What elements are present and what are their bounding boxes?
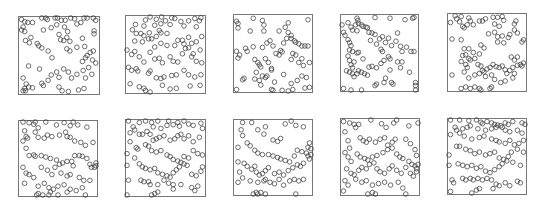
data-point-marker: [376, 181, 381, 186]
data-point-marker: [300, 74, 305, 79]
data-point-marker: [468, 86, 473, 91]
data-point-marker: [361, 57, 366, 62]
data-point-marker: [385, 147, 390, 152]
data-point-marker: [69, 159, 74, 164]
data-point-marker: [237, 170, 242, 175]
data-point-marker: [253, 148, 258, 153]
data-point-marker: [367, 30, 372, 35]
data-point-marker: [414, 170, 419, 175]
data-point-marker: [343, 178, 348, 183]
data-point-marker: [186, 122, 191, 127]
data-point-marker: [468, 148, 473, 153]
data-point-marker: [33, 130, 38, 135]
data-point-marker: [159, 126, 164, 131]
data-point-marker: [511, 76, 516, 81]
data-point-marker: [169, 73, 174, 78]
data-point-marker: [492, 22, 497, 27]
data-point-marker: [373, 140, 378, 145]
plot-frame: [234, 120, 313, 196]
data-point-marker: [245, 141, 250, 146]
data-point-marker: [68, 39, 73, 44]
data-point-marker: [287, 179, 292, 184]
data-point-marker: [497, 164, 502, 169]
data-point-marker: [275, 139, 280, 144]
data-point-marker: [22, 129, 27, 134]
data-point-marker: [395, 60, 400, 65]
data-point-marker: [477, 52, 482, 57]
data-point-marker: [497, 156, 502, 161]
data-point-marker: [459, 86, 464, 91]
data-point-marker: [26, 64, 31, 69]
scatter-panel-9: [340, 118, 420, 196]
data-point-marker: [31, 175, 36, 180]
data-point-marker: [183, 46, 188, 51]
data-point-marker: [277, 177, 282, 182]
data-point-marker: [341, 189, 346, 194]
data-point-marker: [467, 76, 472, 81]
data-point-marker: [193, 188, 198, 193]
data-point-marker: [21, 76, 26, 81]
data-point-marker: [259, 83, 264, 88]
data-point-marker: [486, 32, 491, 37]
data-point-marker: [492, 30, 497, 35]
data-point-marker: [467, 118, 472, 123]
data-point-marker: [470, 137, 475, 142]
data-point-marker: [356, 122, 361, 127]
data-point-marker: [189, 41, 194, 46]
data-point-marker: [260, 152, 265, 157]
data-point-marker: [260, 45, 265, 50]
data-point-marker: [36, 184, 41, 189]
data-point-marker: [306, 44, 311, 49]
data-point-marker: [365, 26, 370, 31]
data-point-marker: [457, 20, 462, 25]
data-point-marker: [456, 162, 461, 167]
data-point-marker: [301, 161, 306, 166]
data-point-marker: [253, 77, 258, 82]
data-point-marker: [515, 63, 520, 68]
data-point-marker: [172, 43, 177, 48]
data-point-marker: [492, 77, 497, 82]
data-point-marker: [62, 120, 67, 125]
data-point-marker: [27, 153, 32, 158]
data-point-marker: [148, 50, 153, 55]
data-point-marker: [61, 67, 66, 72]
data-point-marker: [520, 131, 525, 136]
data-point-marker: [467, 47, 472, 52]
data-point-marker: [93, 61, 98, 66]
data-point-marker: [383, 76, 388, 81]
data-point-marker: [341, 86, 346, 91]
data-point-marker: [57, 133, 62, 138]
data-point-marker: [262, 23, 267, 28]
data-point-marker: [254, 70, 259, 75]
data-point-marker: [71, 164, 76, 169]
data-point-marker: [278, 136, 283, 141]
data-point-marker: [36, 135, 41, 140]
data-point-marker: [57, 32, 62, 37]
data-point-marker: [140, 132, 145, 137]
data-point-marker: [266, 165, 271, 170]
data-point-marker: [171, 182, 176, 187]
data-point-marker: [139, 31, 144, 36]
data-point-marker: [465, 164, 470, 169]
data-point-marker: [497, 24, 502, 29]
data-point-marker: [92, 32, 97, 37]
data-point-marker: [193, 75, 198, 80]
data-point-marker: [160, 172, 165, 177]
data-point-marker: [480, 19, 485, 24]
data-point-marker: [128, 131, 133, 136]
plot-frame: [341, 15, 419, 92]
data-point-marker: [48, 156, 53, 161]
data-point-marker: [260, 18, 265, 23]
data-point-marker: [403, 17, 408, 22]
data-point-marker: [262, 132, 267, 137]
data-point-marker: [82, 178, 87, 183]
data-point-marker: [503, 79, 508, 84]
data-point-marker: [508, 183, 513, 188]
data-point-marker: [471, 23, 476, 28]
data-point-marker: [360, 180, 365, 185]
data-point-marker: [174, 73, 179, 78]
data-point-marker: [248, 144, 253, 149]
data-point-marker: [515, 147, 520, 152]
data-point-marker: [474, 166, 479, 171]
data-point-marker: [79, 20, 84, 25]
